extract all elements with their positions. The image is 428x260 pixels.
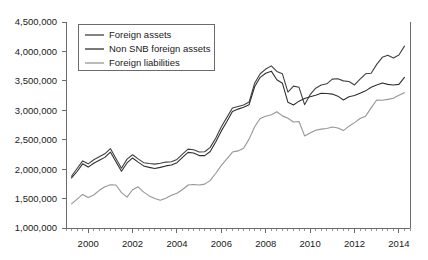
legend-label-2: Foreign liabilities [109,57,180,68]
y-tick-label: 3,500,000 [15,75,57,86]
x-axis-minor-ticks [66,228,410,233]
legend-label-0: Foreign assets [109,29,172,40]
y-tick-label: 1,500,000 [15,193,57,204]
line-chart: 1,000,0001,500,0002,000,0002,500,0003,00… [0,0,428,260]
y-tick-label: 1,000,000 [15,222,57,233]
x-tick-label: 2012 [344,238,365,249]
y-axis-tick-marks [62,22,66,228]
x-axis-tick-labels: 20002002200420062008201020122014 [78,238,410,249]
y-tick-label: 4,500,000 [15,16,57,27]
x-tick-label: 2006 [211,238,232,249]
x-tick-label: 2004 [166,238,187,249]
legend-label-1: Non SNB foreign assets [109,43,211,54]
x-tick-label: 2000 [78,238,99,249]
y-tick-label: 2,000,000 [15,164,57,175]
x-tick-label: 2014 [388,238,409,249]
x-tick-label: 2008 [255,238,276,249]
x-tick-label: 2002 [122,238,143,249]
chart-legend: Foreign assetsNon SNB foreign assetsFore… [78,24,214,70]
chart-canvas: 1,000,0001,500,0002,000,0002,500,0003,00… [0,0,428,260]
y-tick-label: 4,000,000 [15,46,57,57]
y-tick-label: 2,500,000 [15,134,57,145]
x-tick-label: 2010 [300,238,321,249]
y-tick-label: 3,000,000 [15,105,57,116]
y-axis-tick-labels: 1,000,0001,500,0002,000,0002,500,0003,00… [15,16,57,233]
series-line-1 [72,71,405,178]
